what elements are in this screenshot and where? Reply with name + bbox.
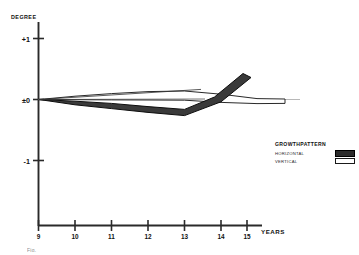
y-tick-label-zero: ±0 [8, 96, 30, 105]
legend-item-vertical: VERTICAL [275, 158, 355, 164]
legend-label-vertical: VERTICAL [275, 159, 297, 164]
x-tick-label-11: 11 [103, 233, 121, 240]
x-tick-label-9: 9 [30, 233, 48, 240]
chart-legend: GROWTHPATTERN HORIZONTAL VERTICAL [275, 141, 355, 166]
x-tick-label-13: 13 [176, 233, 194, 240]
legend-item-horizontal: HORIZONTAL [275, 151, 355, 157]
x-tick-label-12: 12 [139, 233, 157, 240]
growth-pattern-chart: DEGREE YEARS +1 ±0 -1 9 10 11 12 13 14 1… [0, 0, 359, 255]
y-axis-title: DEGREE [11, 15, 36, 20]
caption-fragment: Fig. [27, 247, 37, 252]
chart-canvas [0, 0, 359, 255]
y-tick-label-minus-1: -1 [8, 157, 30, 166]
x-tick-label-14: 14 [212, 233, 230, 240]
legend-swatch-vertical [335, 158, 355, 165]
x-tick-label-15: 15 [238, 233, 256, 240]
legend-label-horizontal: HORIZONTAL [275, 151, 304, 156]
y-tick-label-plus-1: +1 [8, 35, 30, 44]
x-axis-title: YEARS [261, 229, 285, 235]
x-tick-label-10: 10 [66, 233, 84, 240]
legend-title: GROWTHPATTERN [275, 141, 355, 147]
legend-swatch-horizontal [335, 150, 355, 157]
